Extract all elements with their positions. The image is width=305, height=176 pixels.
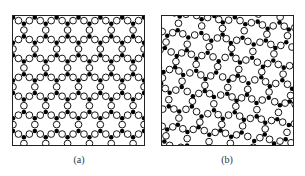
open-atom	[81, 131, 88, 138]
filled-atom	[268, 84, 273, 89]
open-atom	[223, 35, 230, 42]
open-atom	[102, 36, 109, 43]
filled-atom	[54, 40, 59, 45]
open-atom	[113, 55, 120, 62]
filled-atom	[22, 135, 27, 140]
open-atom	[108, 140, 115, 145]
filled-atom	[240, 36, 245, 41]
filled-atom	[54, 116, 59, 121]
open-atom	[206, 90, 213, 97]
filled-atom	[194, 56, 199, 61]
open-atom	[251, 76, 258, 83]
open-atom	[86, 102, 93, 109]
filled-atom	[229, 135, 234, 140]
filled-atom	[232, 110, 237, 115]
open-atom	[75, 46, 82, 53]
open-atom	[124, 36, 131, 43]
open-atom	[13, 121, 16, 128]
filled-atom	[254, 101, 259, 106]
filled-atom	[109, 110, 114, 115]
open-atom	[179, 30, 186, 37]
open-atom	[244, 86, 251, 93]
open-atom	[48, 93, 55, 100]
open-atom	[248, 96, 255, 103]
open-atom	[179, 78, 186, 85]
open-atom	[92, 17, 99, 24]
filled-atom	[54, 129, 59, 134]
filled-atom	[43, 34, 48, 39]
filled-atom	[120, 40, 125, 45]
open-atom	[26, 93, 33, 100]
open-atom	[178, 144, 185, 145]
open-atom	[275, 109, 282, 116]
filled-atom	[252, 139, 257, 144]
open-atom	[15, 55, 22, 62]
open-atom	[86, 27, 93, 34]
open-atom	[31, 83, 38, 90]
open-atom	[197, 72, 204, 79]
filled-atom	[225, 91, 230, 96]
filled-atom	[234, 99, 239, 104]
open-atom	[255, 16, 262, 17]
open-atom	[210, 54, 217, 61]
filled-atom	[120, 91, 125, 96]
filled-atom	[131, 59, 136, 64]
filled-atom	[185, 130, 190, 135]
open-atom	[37, 112, 44, 119]
open-atom	[270, 23, 277, 30]
filled-atom	[275, 117, 280, 122]
open-atom	[232, 103, 239, 110]
open-atom	[81, 36, 88, 43]
caption-b: (b)	[207, 154, 247, 165]
open-atom	[178, 50, 185, 57]
filled-atom	[22, 110, 27, 115]
filled-atom	[13, 129, 15, 134]
open-atom	[48, 131, 55, 138]
open-atom	[277, 16, 284, 20]
filled-atom	[65, 34, 70, 39]
open-atom	[124, 74, 131, 81]
open-atom	[130, 102, 137, 109]
open-atom	[37, 131, 44, 138]
open-atom	[21, 140, 28, 145]
filled-atom	[255, 19, 260, 24]
open-atom	[70, 36, 77, 43]
open-atom	[42, 65, 49, 72]
open-atom	[42, 27, 49, 34]
open-atom	[162, 75, 166, 82]
open-atom	[42, 102, 49, 109]
open-atom	[184, 88, 191, 95]
open-atom	[222, 54, 229, 61]
open-atom	[70, 55, 77, 62]
open-atom	[212, 129, 219, 136]
filled-atom	[54, 16, 59, 20]
open-atom	[135, 36, 142, 43]
filled-atom	[131, 135, 136, 140]
open-atom	[59, 17, 66, 24]
filled-atom	[177, 109, 182, 114]
filled-atom	[33, 129, 38, 134]
open-atom	[92, 131, 99, 138]
open-atom	[262, 126, 269, 133]
open-atom	[135, 55, 142, 62]
filled-atom	[76, 129, 81, 134]
open-atom	[258, 68, 265, 75]
open-atom	[37, 36, 44, 43]
open-atom	[15, 17, 22, 24]
filled-atom	[226, 79, 231, 84]
filled-atom	[205, 51, 210, 56]
open-atom	[48, 36, 55, 43]
filled-atom	[281, 65, 286, 70]
filled-atom	[54, 78, 59, 83]
open-atom	[250, 48, 257, 55]
filled-atom	[43, 110, 48, 115]
filled-atom	[87, 59, 92, 64]
open-atom	[86, 140, 93, 145]
open-atom	[59, 93, 66, 100]
filled-atom	[216, 59, 221, 64]
filled-atom	[22, 22, 27, 27]
filled-atom	[43, 135, 48, 140]
filled-atom	[181, 73, 186, 78]
open-atom	[92, 55, 99, 62]
filled-atom	[13, 40, 15, 45]
